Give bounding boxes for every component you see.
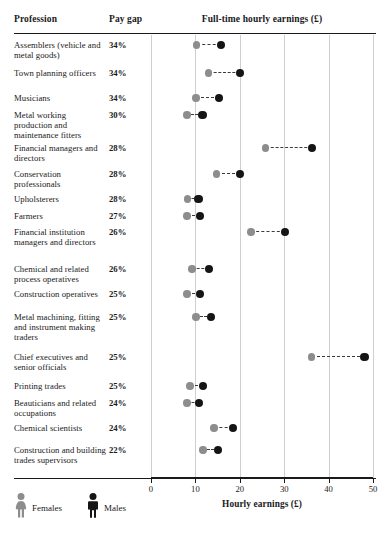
dumbbell-marker <box>151 92 373 104</box>
x-tick-label-50: 50 <box>360 484 386 494</box>
profession-label: Financial managers and directors <box>14 143 106 163</box>
dumbbell-marker <box>151 226 373 238</box>
profession-label: Conservation professionals <box>14 169 106 189</box>
pay-gap-value: 28% <box>109 194 139 204</box>
dumbbell-marker <box>151 210 373 222</box>
pay-gap-chart: Profession Pay gap Full-time hourly earn… <box>0 0 390 538</box>
female-data-point <box>192 313 199 320</box>
x-tick-20 <box>240 479 241 483</box>
pay-gap-value: 24% <box>109 398 139 408</box>
profession-label: Financial institution managers and direc… <box>14 227 106 247</box>
female-data-point <box>213 170 220 177</box>
profession-label: Metal working production and maintenance… <box>14 110 106 141</box>
profession-label: Printing trades <box>14 381 106 391</box>
pay-gap-value: 25% <box>109 352 139 362</box>
gridline-50 <box>373 35 374 478</box>
pay-gap-value: 27% <box>109 211 139 221</box>
dumbbell-connector <box>251 231 285 233</box>
x-axis-line <box>151 477 373 478</box>
x-tick-label-30: 30 <box>271 484 297 494</box>
dumbbell-marker <box>151 67 373 79</box>
pay-gap-value: 22% <box>109 445 139 455</box>
pay-gap-value: 24% <box>109 423 139 433</box>
dumbbell-marker <box>151 109 373 121</box>
pay-gap-value: 26% <box>109 227 139 237</box>
male-data-point <box>308 144 316 152</box>
x-tick-label-10: 10 <box>182 484 208 494</box>
dumbbell-marker <box>151 397 373 409</box>
male-data-point <box>205 265 213 273</box>
profession-label: Chemical scientists <box>14 423 106 433</box>
column-header-profession: Profession <box>14 14 57 24</box>
pay-gap-value: 25% <box>109 381 139 391</box>
pay-gap-value: 34% <box>109 93 139 103</box>
x-axis-title: Hourly earnings (£) <box>151 499 373 509</box>
male-data-point <box>215 94 223 102</box>
dumbbell-marker <box>151 168 373 180</box>
dumbbell-marker <box>151 142 373 154</box>
x-tick-10 <box>195 479 196 483</box>
profession-label: Musicians <box>14 93 106 103</box>
legend-label-males: Males <box>104 503 126 513</box>
table-header: Profession Pay gap Full-time hourly earn… <box>0 14 390 30</box>
male-data-point <box>236 69 244 77</box>
pay-gap-value: 28% <box>109 169 139 179</box>
male-data-point <box>199 382 207 390</box>
x-tick-50 <box>373 479 374 483</box>
profession-label: Construction and building trades supervi… <box>14 445 106 465</box>
profession-label: Assemblers (vehicle and metal goods) <box>14 40 106 60</box>
pay-gap-value: 26% <box>109 264 139 274</box>
dumbbell-marker <box>151 351 373 363</box>
female-data-point <box>205 69 212 76</box>
male-data-point <box>196 212 204 220</box>
female-data-point <box>210 424 217 431</box>
profession-label: Town planning officers <box>14 68 106 78</box>
male-figure-icon <box>86 492 100 522</box>
male-data-point <box>194 195 202 203</box>
female-data-point <box>192 94 199 101</box>
profession-label: Chemical and related process operatives <box>14 264 106 284</box>
female-data-point <box>186 382 193 389</box>
legend-label-females: Females <box>32 503 62 513</box>
profession-label: Construction operatives <box>14 289 106 299</box>
male-data-point <box>198 111 206 119</box>
pay-gap-value: 28% <box>109 143 139 153</box>
dumbbell-connector <box>266 147 312 149</box>
x-tick-40 <box>329 479 330 483</box>
female-data-point <box>199 446 206 453</box>
male-data-point <box>196 290 204 298</box>
profession-label: Upholsterers <box>14 194 106 204</box>
pay-gap-value: 34% <box>109 40 139 50</box>
dumbbell-marker <box>151 444 373 456</box>
male-data-point <box>207 313 215 321</box>
profession-label: Chief executives and senior officials <box>14 352 106 372</box>
female-data-point <box>183 212 190 219</box>
column-header-pay-gap: Pay gap <box>109 14 142 24</box>
column-header-earnings: Full-time hourly earnings (£) <box>151 14 373 24</box>
dumbbell-connector <box>312 356 365 358</box>
dumbbell-marker <box>151 39 373 51</box>
female-figure-icon <box>14 492 28 522</box>
female-data-point <box>247 228 254 235</box>
female-data-point <box>308 353 315 360</box>
male-data-point <box>217 41 225 49</box>
male-data-point <box>281 228 289 236</box>
female-data-point <box>183 290 190 297</box>
pay-gap-value: 25% <box>109 289 139 299</box>
male-data-point <box>229 424 237 432</box>
dumbbell-marker <box>151 311 373 323</box>
pay-gap-value: 25% <box>109 312 139 322</box>
profession-label: Beauticians and related occupations <box>14 398 106 418</box>
profession-label: Farmers <box>14 211 106 221</box>
profession-label: Metal machining, fitting and instrument … <box>14 312 106 343</box>
dumbbell-marker <box>151 193 373 205</box>
female-data-point <box>183 111 190 118</box>
x-tick-30 <box>284 479 285 483</box>
male-data-point <box>214 446 222 454</box>
female-data-point <box>193 41 200 48</box>
x-tick-0 <box>151 479 152 483</box>
female-data-point <box>183 399 190 406</box>
male-data-point <box>360 353 368 361</box>
male-data-point <box>195 399 203 407</box>
male-data-point <box>236 170 244 178</box>
